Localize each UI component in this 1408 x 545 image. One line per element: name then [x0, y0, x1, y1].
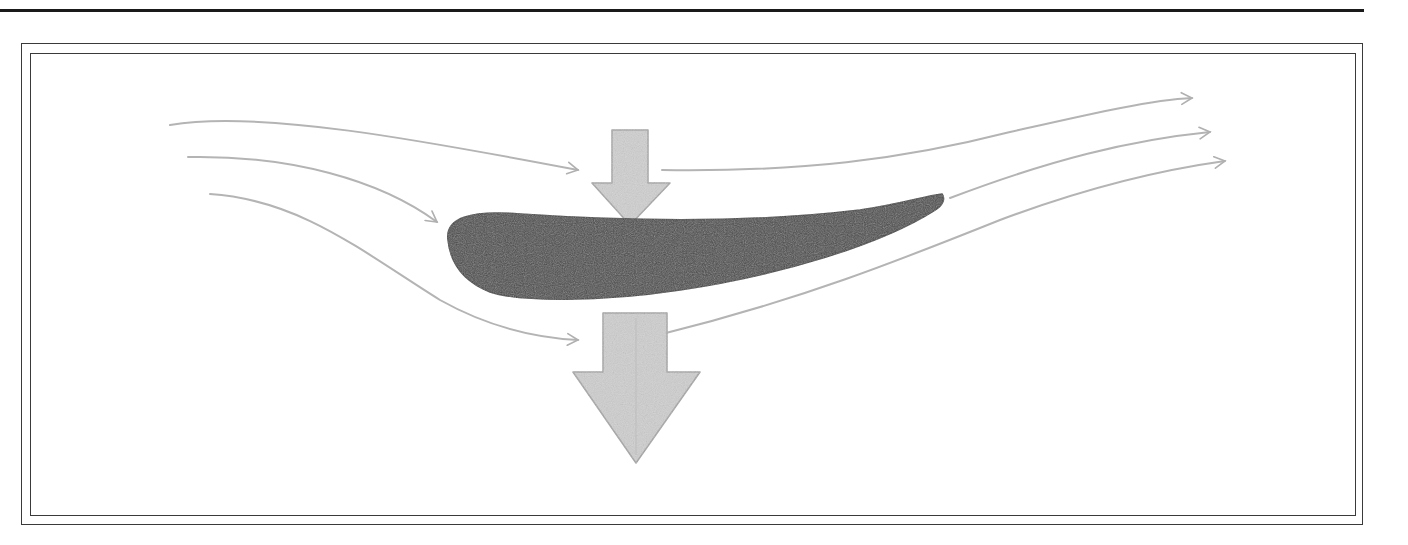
streamline-upstream-middle — [188, 157, 437, 222]
airfoil-diagram — [0, 0, 1408, 545]
streamline-downstream-upper — [662, 98, 1192, 170]
airfoil-shape — [448, 194, 944, 299]
small-downward-force-arrow-icon — [592, 130, 670, 225]
streamline-downstream-middle — [950, 132, 1210, 198]
downstream-streamlines — [662, 98, 1225, 334]
streamline-upstream-upper — [170, 121, 578, 170]
